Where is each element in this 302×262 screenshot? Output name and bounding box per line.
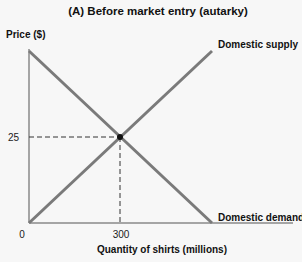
y-tick-25: 25 <box>8 132 20 143</box>
x-tick-300: 300 <box>113 229 130 240</box>
supply-demand-chart: (A) Before market entry (autarky) Price … <box>0 0 302 262</box>
y-axis-label: Price ($) <box>6 29 45 40</box>
demand-label: Domestic demand <box>218 212 302 223</box>
equilibrium-point <box>117 134 123 140</box>
supply-label: Domestic supply <box>218 39 298 50</box>
chart-canvas: (A) Before market entry (autarky) Price … <box>0 0 302 262</box>
origin-label: 0 <box>19 229 25 240</box>
x-axis-label: Quantity of shirts (millions) <box>97 244 227 255</box>
chart-title: (A) Before market entry (autarky) <box>68 5 248 17</box>
